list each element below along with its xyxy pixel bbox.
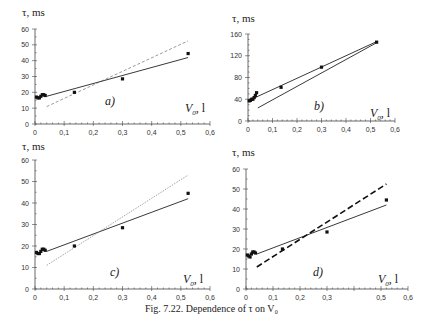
x-tick-label: 0,1 <box>59 294 69 301</box>
y-tick-label: 40 <box>232 206 240 213</box>
data-point <box>121 77 124 80</box>
fit-line-bold-dashed <box>257 184 387 267</box>
fit-line-dashed <box>47 41 188 107</box>
fit-line-solid <box>47 199 188 252</box>
y-tick-label: 0 <box>236 286 240 293</box>
y-tick-label: 30 <box>232 226 240 233</box>
x-tick-label: 0,5 <box>376 294 386 301</box>
data-point <box>248 255 251 258</box>
x-tick-label: 0,5 <box>176 129 186 136</box>
chart-panel-b: 00,10,20,30,40,50,604080120160τ, msb)V0,… <box>230 12 400 133</box>
y-tick-label: 10 <box>21 264 29 271</box>
y-tick-label: 120 <box>230 52 242 59</box>
data-point <box>320 66 323 69</box>
data-point <box>44 94 47 97</box>
panel-label: d) <box>313 265 323 279</box>
data-point <box>385 198 388 201</box>
y-tick-label: 10 <box>232 266 240 273</box>
fit-line-dotted <box>47 175 188 265</box>
y-tick-label: 50 <box>21 178 29 185</box>
x-tick-label: 0,1 <box>59 129 69 136</box>
x-tick-label: 0,4 <box>147 129 157 136</box>
fit-line-solid <box>257 205 387 254</box>
x-tick-label: 0,5 <box>366 126 376 133</box>
y-axis-label: τ, ms <box>232 12 255 24</box>
y-tick-label: 60 <box>21 26 29 33</box>
x-axis-label: V0, l <box>185 101 206 117</box>
x-axis-label: V0, l <box>370 106 391 122</box>
panel-label: c) <box>110 265 119 279</box>
x-tick-label: 0,5 <box>176 294 186 301</box>
y-tick-label: 10 <box>21 105 29 112</box>
data-point <box>73 244 76 247</box>
x-tick-label: 0,6 <box>205 294 215 301</box>
y-tick-label: 50 <box>232 186 240 193</box>
y-tick-label: 50 <box>21 41 29 48</box>
y-tick-label: 0 <box>25 121 29 128</box>
y-tick-label: 20 <box>232 246 240 253</box>
y-tick-label: 60 <box>232 166 240 173</box>
x-tick-label: 0,2 <box>295 294 305 301</box>
x-tick-label: 0,6 <box>390 126 400 133</box>
data-point <box>255 91 258 94</box>
y-tick-label: 40 <box>21 57 29 64</box>
x-tick-label: 0,6 <box>403 294 413 301</box>
y-axis-label: τ, ms <box>232 146 255 158</box>
x-tick-label: 0,3 <box>118 294 128 301</box>
panel-label: a) <box>105 94 115 108</box>
y-tick-label: 40 <box>21 200 29 207</box>
y-tick-label: 30 <box>21 221 29 228</box>
x-tick-label: 0,3 <box>322 294 332 301</box>
data-point <box>121 226 124 229</box>
y-tick-label: 20 <box>21 243 29 250</box>
x-tick-label: 0 <box>33 294 37 301</box>
panel-label: b) <box>314 99 324 113</box>
x-axis-label: V0, l <box>378 272 399 288</box>
data-point <box>281 247 284 250</box>
x-tick-label: 0,3 <box>118 129 128 136</box>
y-axis-label: τ, ms <box>22 140 45 152</box>
data-point <box>187 192 190 195</box>
y-tick-label: 80 <box>234 74 242 81</box>
data-point <box>73 91 76 94</box>
data-point <box>44 249 47 252</box>
x-tick-label: 0,2 <box>88 129 98 136</box>
x-tick-label: 0 <box>33 129 37 136</box>
chart-panel-c: 00,10,20,30,40,50,60102030405060τ, msc)V… <box>21 140 215 301</box>
x-tick-label: 0,1 <box>268 126 278 133</box>
x-tick-label: 0,3 <box>317 126 327 133</box>
chart-panel-d: 00,10,20,30,50,60102030405060τ, msd)V0, … <box>232 146 413 301</box>
x-axis-label: V0, l <box>183 272 204 288</box>
data-point <box>279 86 282 89</box>
x-tick-label: 0,4 <box>341 126 351 133</box>
data-point <box>254 251 257 254</box>
y-tick-label: 20 <box>21 89 29 96</box>
data-point <box>375 41 378 44</box>
x-tick-label: 0,1 <box>268 294 278 301</box>
y-tick-label: 0 <box>25 286 29 293</box>
y-tick-label: 160 <box>230 31 242 38</box>
x-tick-label: 0,4 <box>147 294 157 301</box>
fit-line-solid <box>248 42 377 101</box>
data-point <box>325 230 328 233</box>
x-tick-label: 0 <box>246 126 250 133</box>
y-tick-label: 30 <box>21 73 29 80</box>
x-tick-label: 0,2 <box>292 126 302 133</box>
chart-panel-a: 00,10,20,30,40,50,60102030405060τ, msa)V… <box>21 6 215 136</box>
data-point <box>187 52 190 55</box>
y-tick-label: 0 <box>238 118 242 125</box>
x-tick-label: 0 <box>244 294 248 301</box>
figure-caption: Fig. 7.22. Dependence of τ on V₀ <box>0 303 423 314</box>
x-tick-label: 0,2 <box>88 294 98 301</box>
y-tick-label: 40 <box>234 96 242 103</box>
charts-canvas: 00,10,20,30,40,50,60102030405060τ, msa)V… <box>0 0 423 319</box>
y-axis-label: τ, ms <box>22 6 45 18</box>
fit-line-solid <box>47 58 188 97</box>
y-tick-label: 60 <box>21 157 29 164</box>
x-tick-label: 0,6 <box>205 129 215 136</box>
